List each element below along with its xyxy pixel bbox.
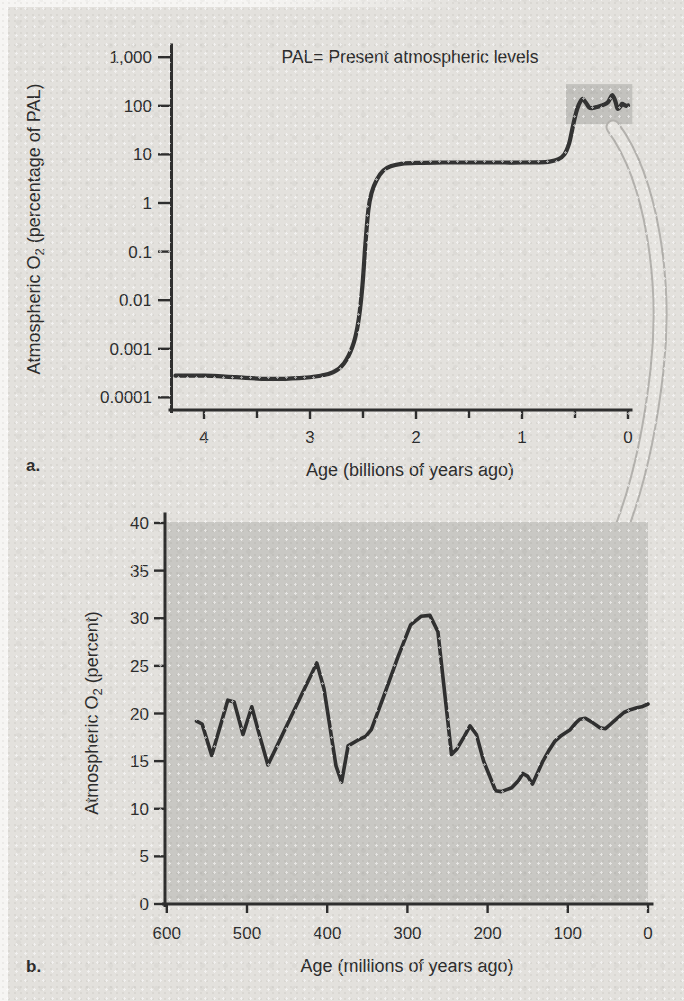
y-tick-label: 30 xyxy=(130,609,149,628)
y-tick-label: 20 xyxy=(130,705,149,724)
y-tick-label: 0 xyxy=(140,895,149,914)
oxygen-evolution-figure: 1,0001001010.10.010.0010.0001 43210 PAL=… xyxy=(0,0,684,1001)
x-tick-label: 0 xyxy=(643,924,652,943)
oxygen-pal-curve xyxy=(175,95,628,379)
panel-b-linear-chart: 0510152025303540 6005004003002001000 Age… xyxy=(26,514,653,976)
panel-b-y-ticks: 0510152025303540 xyxy=(130,514,165,914)
x-tick-label: 200 xyxy=(473,924,501,943)
y-tick-label: 10 xyxy=(130,800,149,819)
panel-a-letter: a. xyxy=(26,456,40,475)
pal-note: PAL= Present atmospheric levels xyxy=(282,47,539,67)
y-tick-label: 0.0001 xyxy=(100,388,152,407)
figure-page: 1,0001001010.10.010.0010.0001 43210 PAL=… xyxy=(0,0,684,1001)
zoom-arrow xyxy=(595,127,660,580)
y-tick-label: 35 xyxy=(130,562,149,581)
y-tick-label: 0.01 xyxy=(119,291,152,310)
panel-b-x-ticks: 6005004003002001000 xyxy=(153,904,653,943)
y-tick-label: 25 xyxy=(130,657,149,676)
panel-a-y-axis-label: Atmospheric O2 (percentage of PAL) xyxy=(24,83,47,374)
y-tick-label: 0.001 xyxy=(109,340,152,359)
panel-b-letter: b. xyxy=(26,957,41,976)
panel-a-x-axis-label: Age (billions of years ago) xyxy=(306,460,514,480)
panel-b-y-axis-label: Atmospheric O2 (percent) xyxy=(82,611,105,814)
y-tick-label: 1 xyxy=(143,194,152,213)
x-tick-label: 300 xyxy=(393,924,421,943)
page-edge-left xyxy=(0,0,8,1001)
x-tick-label: 400 xyxy=(313,924,341,943)
y-tick-label: 100 xyxy=(124,97,152,116)
x-tick-label: 1 xyxy=(517,428,526,447)
y-tick-label: 0.1 xyxy=(128,243,152,262)
x-tick-label: 2 xyxy=(411,428,420,447)
panel-a-y-ticks: 1,0001001010.10.010.0010.0001 xyxy=(100,48,171,407)
y-tick-label: 10 xyxy=(133,145,152,164)
y-tick-label: 5 xyxy=(140,847,149,866)
x-tick-label: 100 xyxy=(554,924,582,943)
page-edge-top xyxy=(0,0,470,7)
y-tick-label: 15 xyxy=(130,752,149,771)
x-tick-label: 0 xyxy=(623,428,632,447)
x-tick-label: 600 xyxy=(153,924,181,943)
x-tick-label: 4 xyxy=(199,428,208,447)
panel-a-x-ticks: 43210 xyxy=(199,410,632,447)
x-tick-label: 3 xyxy=(305,428,314,447)
panel-b-x-axis-label: Age (millions of years ago) xyxy=(300,956,513,976)
y-tick-label: 40 xyxy=(130,514,149,533)
x-tick-label: 500 xyxy=(233,924,261,943)
panel-a-log-chart: 1,0001001010.10.010.0010.0001 43210 PAL=… xyxy=(24,45,633,480)
y-tick-label: 1,000 xyxy=(109,48,152,67)
